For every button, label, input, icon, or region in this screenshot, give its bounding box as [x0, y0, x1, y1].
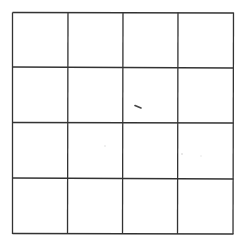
- speck-mark: [104, 145, 106, 147]
- grid-diagram: [0, 0, 243, 249]
- background: [0, 0, 243, 249]
- speck-mark: [200, 155, 202, 157]
- grid-horizontal-line: [13, 13, 234, 14]
- grid-horizontal-line: [13, 234, 234, 235]
- speck-mark: [181, 153, 183, 155]
- grid-horizontal-line: [13, 123, 234, 124]
